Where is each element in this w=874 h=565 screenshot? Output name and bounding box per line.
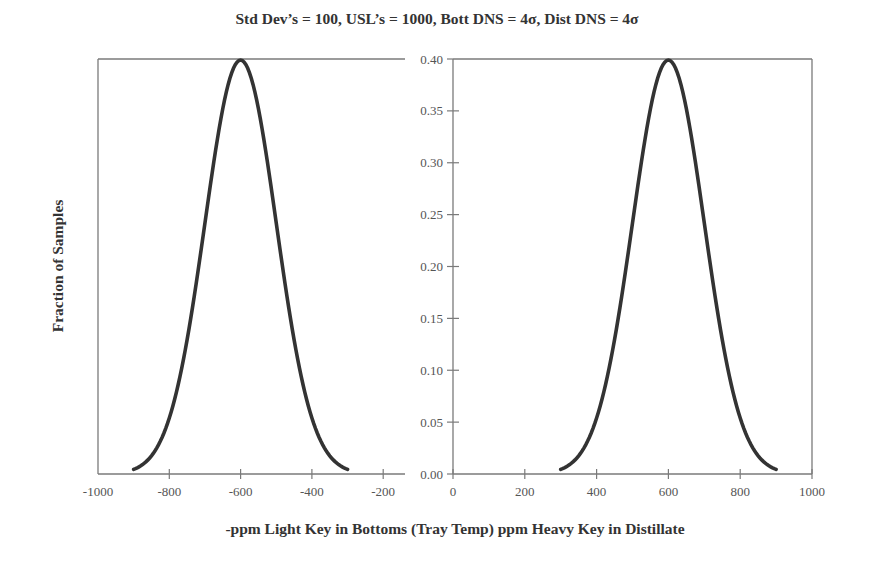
x-axis-label: -ppm Light Key in Bottoms (Tray Temp) pp… — [225, 520, 684, 538]
y-tick-label: 0.10 — [420, 363, 443, 378]
x-tick-label: 1000 — [799, 484, 825, 499]
y-tick-label: 0.30 — [420, 155, 443, 170]
x-tick-label: -800 — [157, 484, 181, 499]
y-tick-label: 0.05 — [420, 415, 443, 430]
x-tick-label: 200 — [515, 484, 535, 499]
x-tick-label: 400 — [587, 484, 607, 499]
x-tick-label: 0 — [450, 484, 457, 499]
x-tick-label: 800 — [730, 484, 750, 499]
x-tick-label: -200 — [371, 484, 395, 499]
y-tick-label: 0.35 — [420, 103, 443, 118]
x-tick-label: -400 — [300, 484, 324, 499]
y-tick-label: 0.15 — [420, 311, 443, 326]
y-axis: 0.400.350.300.250.200.150.100.050.00 — [408, 51, 459, 482]
y-tick-label: 0.20 — [420, 259, 443, 274]
x-tick-label: 600 — [659, 484, 679, 499]
distribution-curve — [561, 60, 776, 469]
distribution-curve — [134, 60, 348, 469]
y-tick-label: 0.00 — [420, 467, 443, 482]
chart-area: -1000-800-600-400-200 02004006008001000 … — [0, 0, 874, 565]
x-tick-label: -1000 — [83, 484, 113, 499]
y-tick-label: 0.40 — [420, 52, 443, 67]
bottoms-panel: -1000-800-600-400-200 — [83, 59, 405, 499]
y-axis-label: Fraction of Samples — [49, 200, 66, 333]
y-tick-label: 0.25 — [420, 207, 443, 222]
x-tick-label: -600 — [229, 484, 253, 499]
distillate-panel: 02004006008001000 — [450, 59, 825, 499]
